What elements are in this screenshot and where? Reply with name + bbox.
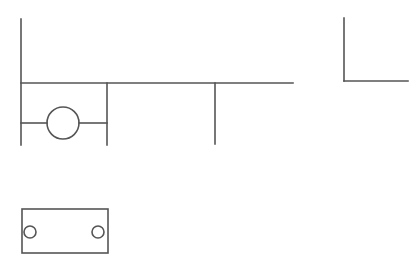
line-diagram [0,0,417,273]
coil-circle-symbol [47,107,79,139]
plate-hole-left [24,226,36,238]
plate-hole-right [92,226,104,238]
plate-rectangle [22,209,108,253]
